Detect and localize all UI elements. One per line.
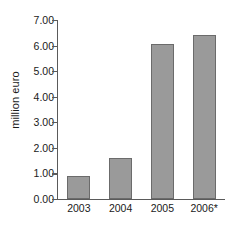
y-axis-title: million euro	[4, 0, 26, 200]
y-axis-tick-label: 6.00	[24, 40, 54, 52]
y-axis-tick-mark	[52, 20, 57, 21]
y-axis-tick-mark	[52, 199, 57, 200]
y-axis-tick-label: 5.00	[24, 65, 54, 77]
y-axis-tick-label: 3.00	[24, 116, 54, 128]
y-axis-title-text: million euro	[9, 71, 21, 128]
bar-chart: million euro 0.001.002.003.004.005.006.0…	[0, 0, 237, 227]
x-axis-tick-label: 2003	[67, 202, 90, 214]
y-axis-tick-mark	[52, 97, 57, 98]
bar	[151, 44, 174, 199]
y-axis-tick-label: 0.00	[24, 193, 54, 205]
y-axis-tick-label: 4.00	[24, 91, 54, 103]
y-axis-tick-mark	[52, 173, 57, 174]
y-axis-tick-mark	[52, 122, 57, 123]
x-axis-tick-label: 2004	[109, 202, 132, 214]
x-axis-tick-label: 2005	[151, 202, 174, 214]
x-axis-tick-labels: 2003200420052006*	[58, 202, 225, 222]
y-axis-tick-label: 2.00	[24, 142, 54, 154]
y-axis-tick-label: 7.00	[24, 14, 54, 26]
x-axis-line	[57, 199, 225, 200]
bar	[109, 158, 132, 199]
y-axis-tick-mark	[52, 71, 57, 72]
y-axis-tick-mark	[52, 46, 57, 47]
x-axis-tick-label: 2006*	[190, 202, 217, 214]
y-axis-tick-labels: 0.001.002.003.004.005.006.007.00	[24, 20, 54, 199]
y-axis-tick-mark	[52, 148, 57, 149]
y-axis-tick-label: 1.00	[24, 167, 54, 179]
plot-area	[58, 20, 225, 199]
bar	[67, 176, 90, 199]
bar	[193, 35, 216, 199]
